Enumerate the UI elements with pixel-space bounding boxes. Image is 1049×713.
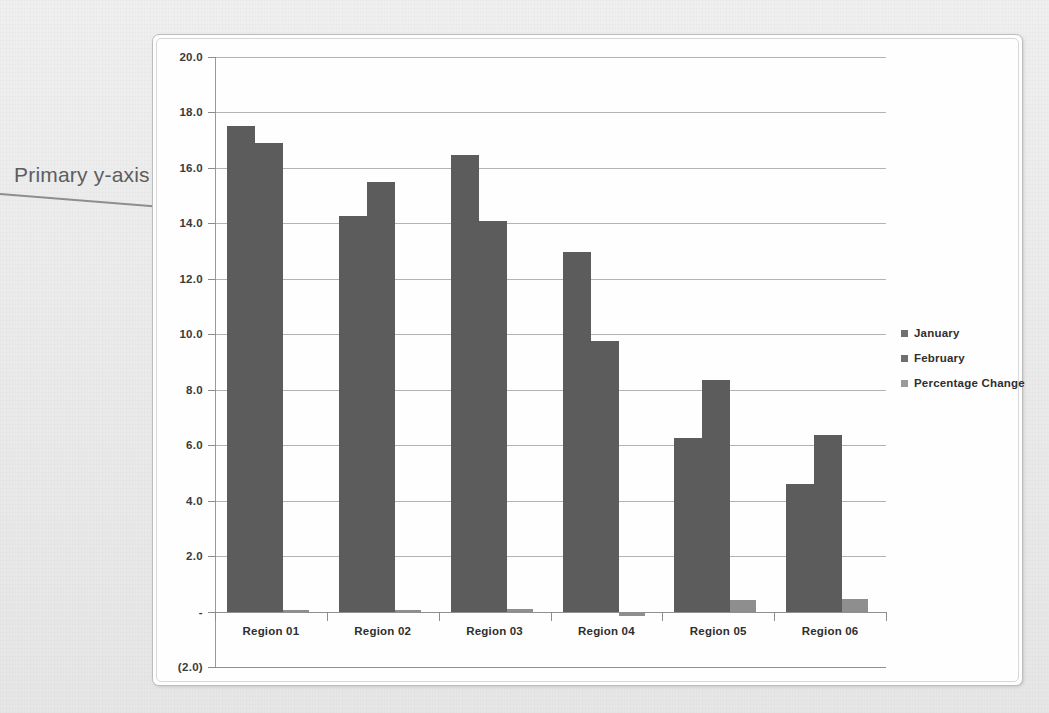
y-axis-tick [208,279,216,280]
y-axis-tick-label: 10.0 [153,328,203,340]
gridline [215,667,886,668]
y-axis-tick-label: 4.0 [153,495,203,507]
x-axis-label: Region 05 [662,625,774,637]
bar-january[interactable] [451,155,479,611]
bar-february[interactable] [702,380,730,612]
bar-group [215,57,327,667]
bar-percentage-change[interactable] [619,612,645,616]
y-axis-tick [208,556,216,557]
y-axis-tick-label: 8.0 [153,384,203,396]
bar-january[interactable] [674,438,702,611]
bar-percentage-change[interactable] [283,610,309,611]
y-axis-tick [208,501,216,502]
y-axis-tick [208,445,216,446]
y-axis-tick-label: 16.0 [153,162,203,174]
bar-february[interactable] [367,182,395,612]
chart-legend: JanuaryFebruaryPercentage Change [901,327,1025,402]
chart-plot-wrapper: 20.018.016.014.012.010.08.06.04.02.0-(2.… [153,35,1022,685]
chart-frame: 20.018.016.014.012.010.08.06.04.02.0-(2.… [152,34,1023,686]
y-axis-tick [208,667,216,668]
x-axis-label: Region 06 [774,625,886,637]
bar-february[interactable] [255,143,283,612]
y-axis-tick-label: - [153,606,203,618]
bar-january[interactable] [339,216,367,611]
bar-february[interactable] [591,341,619,611]
y-axis-tick-label: 18.0 [153,106,203,118]
x-axis-tick [774,612,775,621]
plot-area [215,57,886,667]
legend-item[interactable]: February [901,352,1025,364]
x-axis-tick [886,612,887,621]
bar-percentage-change[interactable] [730,600,756,611]
x-axis-tick [551,612,552,621]
y-axis-tick [208,112,216,113]
y-axis-tick-label: 6.0 [153,439,203,451]
y-axis-tick-label: 2.0 [153,550,203,562]
y-axis-tick [208,334,216,335]
legend-swatch-icon [901,330,908,337]
y-axis-tick-label: (2.0) [153,661,203,673]
y-axis-tick [208,390,216,391]
bar-group [774,57,886,667]
x-axis-label: Region 02 [327,625,439,637]
bar-january[interactable] [786,484,814,612]
bar-january[interactable] [563,252,591,611]
legend-item[interactable]: Percentage Change [901,377,1025,389]
legend-label: February [914,352,965,364]
y-axis-labels: 20.018.016.014.012.010.08.06.04.02.0-(2.… [153,35,203,685]
x-axis-tick [662,612,663,621]
bar-group [551,57,663,667]
bar-february[interactable] [479,221,507,612]
x-axis-tick [215,612,216,621]
x-axis-label: Region 04 [551,625,663,637]
y-axis-tick [208,57,216,58]
bar-percentage-change[interactable] [507,609,533,612]
y-axis-tick [208,168,216,169]
bar-february[interactable] [814,435,842,611]
bar-percentage-change[interactable] [395,610,421,611]
legend-item[interactable]: January [901,327,1025,339]
y-axis-tick-label: 12.0 [153,273,203,285]
x-axis-label: Region 03 [439,625,551,637]
x-axis-tick [439,612,440,621]
bar-group [662,57,774,667]
annotation-label: Primary y-axis [14,163,150,187]
legend-swatch-icon [901,380,908,387]
bar-january[interactable] [227,126,255,611]
legend-label: Percentage Change [914,377,1025,389]
y-axis-tick-label: 14.0 [153,217,203,229]
bar-group [327,57,439,667]
x-axis-tick [327,612,328,621]
bar-percentage-change[interactable] [842,599,868,611]
bar-group [439,57,551,667]
y-axis-tick-label: 20.0 [153,51,203,63]
legend-label: January [914,327,960,339]
y-axis-tick [208,223,216,224]
legend-swatch-icon [901,355,908,362]
x-axis-label: Region 01 [215,625,327,637]
